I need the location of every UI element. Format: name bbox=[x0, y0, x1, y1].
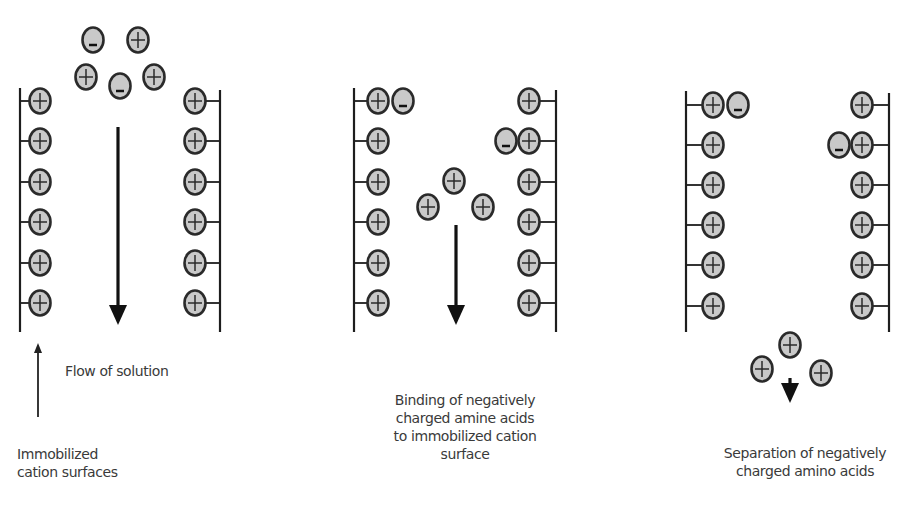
free-positive-ion bbox=[752, 357, 773, 382]
immobilized-cation bbox=[185, 210, 206, 235]
immobilized-cation bbox=[852, 213, 873, 238]
separation-label: Separation of negatively charged amino a… bbox=[695, 444, 915, 480]
immobilized-cation bbox=[519, 210, 540, 235]
bound-negative-amino-acid bbox=[496, 129, 517, 154]
immobilized-cation bbox=[368, 251, 389, 276]
immobilized-cation bbox=[852, 133, 873, 158]
separation-line-2: charged amino acids bbox=[695, 462, 915, 480]
immobilized-cation bbox=[519, 89, 540, 114]
immobilized-cation bbox=[185, 170, 206, 195]
free-negative-ion bbox=[83, 28, 104, 53]
immobilized-cation bbox=[852, 173, 873, 198]
immobilized-cation bbox=[852, 253, 873, 278]
immobilized-cation bbox=[368, 129, 389, 154]
column-panel-3 bbox=[686, 91, 889, 403]
immobilized-cation bbox=[30, 291, 51, 316]
free-negative-ion bbox=[110, 74, 131, 99]
immobilized-cation bbox=[30, 129, 51, 154]
immobilized-cation bbox=[852, 93, 873, 118]
immobilized-cation bbox=[368, 210, 389, 235]
immobilized-cation bbox=[30, 89, 51, 114]
immobilized-line-2: cation surfaces bbox=[17, 463, 118, 481]
bound-negative-amino-acid bbox=[829, 133, 850, 158]
immobilized-cation bbox=[30, 210, 51, 235]
immobilized-cation bbox=[185, 129, 206, 154]
free-positive-ion bbox=[144, 65, 165, 90]
free-positive-ion bbox=[76, 65, 97, 90]
immobilized-cation bbox=[519, 129, 540, 154]
free-positive-ion bbox=[418, 195, 439, 220]
immobilized-cation bbox=[852, 294, 873, 319]
immobilized-cation bbox=[703, 93, 724, 118]
column-panel-1 bbox=[20, 28, 220, 333]
immobilized-cation bbox=[185, 291, 206, 316]
immobilized-cation bbox=[30, 251, 51, 276]
immobilized-cation bbox=[185, 251, 206, 276]
immobilized-line-1: Immobilized bbox=[17, 445, 118, 463]
immobilized-cation bbox=[703, 173, 724, 198]
free-positive-ion bbox=[444, 169, 465, 194]
binding-line-1: Binding of negatively bbox=[350, 391, 580, 409]
immobilized-cation bbox=[368, 89, 389, 114]
immobilized-cation-surfaces-label: Immobilized cation surfaces bbox=[17, 445, 118, 481]
free-positive-ion bbox=[128, 28, 149, 53]
free-positive-ion bbox=[811, 361, 832, 386]
bound-negative-amino-acid bbox=[393, 89, 414, 114]
immobilized-cation bbox=[185, 89, 206, 114]
binding-line-4: surface bbox=[350, 445, 580, 463]
column-panel-2 bbox=[354, 88, 556, 332]
flow-of-solution-label: Flow of solution bbox=[65, 362, 168, 380]
immobilized-cation bbox=[30, 170, 51, 195]
bound-negative-amino-acid bbox=[728, 93, 749, 118]
immobilized-cation bbox=[519, 291, 540, 316]
separation-line-1: Separation of negatively bbox=[695, 444, 915, 462]
immobilized-cation bbox=[368, 170, 389, 195]
immobilized-cation bbox=[703, 133, 724, 158]
immobilized-cation bbox=[368, 291, 389, 316]
binding-line-2: charged amine acids bbox=[350, 409, 580, 427]
free-positive-ion bbox=[473, 195, 494, 220]
immobilized-cation bbox=[519, 251, 540, 276]
free-positive-ion bbox=[780, 333, 801, 358]
binding-line-3: to immobilized cation bbox=[350, 427, 580, 445]
immobilized-cation bbox=[703, 294, 724, 319]
immobilized-cation bbox=[703, 213, 724, 238]
binding-label: Binding of negatively charged amine acid… bbox=[350, 391, 580, 463]
immobilized-cation bbox=[519, 170, 540, 195]
immobilized-cation bbox=[703, 253, 724, 278]
